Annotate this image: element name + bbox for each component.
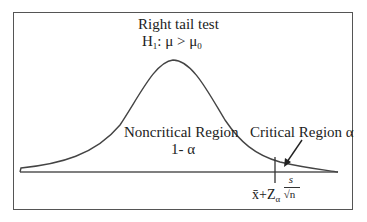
test-title: Right tail test [138,16,219,33]
hypothesis-rest: : μ > μ [157,33,197,49]
alpha-subscript: α [275,194,280,204]
noncritical-region-label: Noncritical Region [124,124,239,141]
arrow-head-icon [284,158,291,167]
s-over-root-n: s √n [284,183,300,205]
denominator-root-n: √n [284,188,296,200]
critical-region-arrow [287,140,302,162]
xbar-symbol: x̄ [252,187,259,202]
plus-z: +Z [259,187,275,202]
noncritical-probability: 1- α [171,141,195,158]
hypothesis-mu-sub: 0 [197,41,202,51]
alternative-hypothesis: H1: μ > μ0 [142,33,202,51]
hypothesis-h: H [142,33,153,49]
numerator-s: s [289,173,293,185]
critical-region-label: Critical Region α [250,124,354,141]
critical-value-formula: x̄+Zα s √n [252,183,300,205]
